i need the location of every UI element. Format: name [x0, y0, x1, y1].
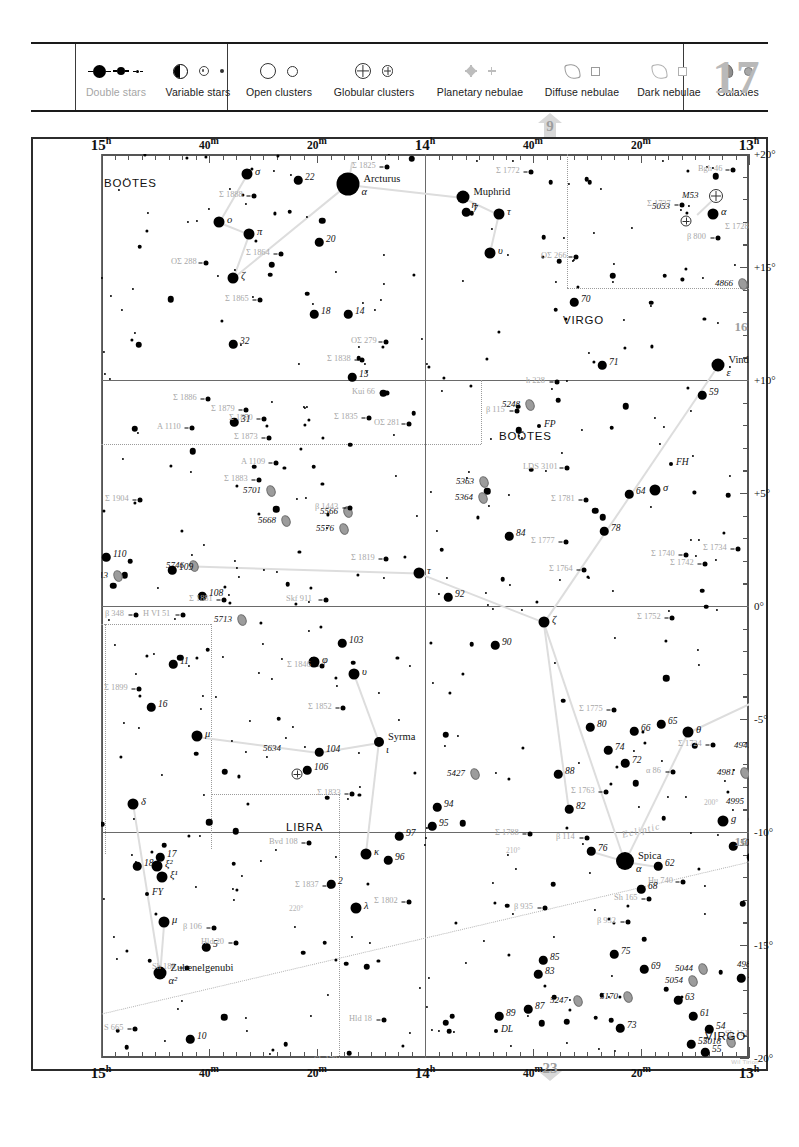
background-star	[138, 245, 143, 250]
background-star	[228, 594, 230, 596]
flamsteed-label: 18	[144, 858, 154, 868]
background-star	[553, 308, 558, 313]
greek-star	[718, 816, 729, 827]
double-star-marker	[187, 424, 196, 431]
bayer-label: φ	[322, 654, 328, 665]
background-star	[704, 604, 709, 609]
greek-star	[361, 849, 372, 860]
constellation-line	[353, 675, 379, 743]
background-star	[642, 937, 647, 942]
legend-label: Double stars	[86, 86, 146, 98]
background-star	[541, 235, 546, 240]
background-star	[187, 221, 189, 223]
flamsteed-star	[674, 996, 683, 1005]
double-star-marker	[512, 407, 521, 414]
background-star	[631, 227, 633, 229]
greek-star	[128, 799, 139, 810]
flamsteed-star	[495, 1012, 504, 1021]
background-star	[726, 493, 731, 498]
background-star	[622, 403, 629, 410]
background-star	[121, 309, 123, 311]
double-star-label: Σ 1728	[725, 222, 749, 231]
background-star	[263, 569, 265, 571]
star-name-label: Spica	[638, 850, 661, 861]
flamsteed-star	[554, 770, 563, 779]
legend-item-globular-clusters: Globular clusters	[323, 44, 425, 110]
background-star	[507, 254, 509, 256]
background-star	[284, 1042, 289, 1047]
double-star-label: Σ 1904	[105, 494, 129, 503]
flamsteed-star	[310, 310, 319, 319]
legend-item-dark-nebulae: Dark nebulae	[628, 44, 710, 110]
double-star-marker	[259, 415, 268, 422]
background-star	[450, 1014, 455, 1019]
bayer-label: κ	[374, 846, 379, 857]
named-star	[712, 359, 725, 372]
background-star	[358, 752, 360, 754]
double-star-marker	[344, 1057, 353, 1059]
background-star	[383, 254, 385, 256]
bayer-label: ζ	[241, 270, 245, 281]
double-star-marker	[382, 163, 391, 170]
background-star	[554, 662, 556, 664]
galaxy-marker	[748, 795, 749, 809]
double-star-label: Σ 1852	[308, 702, 332, 711]
flamsteed-label: 85	[550, 952, 560, 962]
flamsteed-star	[229, 340, 238, 349]
background-star	[258, 672, 260, 674]
background-star	[453, 1031, 455, 1033]
double-star-marker	[561, 538, 570, 545]
greek-star	[539, 617, 550, 628]
background-star	[222, 656, 224, 658]
background-star	[581, 429, 583, 431]
flamsteed-star	[565, 805, 574, 814]
page-link-label: 16	[735, 319, 748, 335]
background-star	[611, 975, 613, 977]
flamsteed-label: 90	[502, 637, 512, 647]
greek-star	[228, 273, 239, 284]
background-star	[134, 332, 136, 334]
background-star	[649, 300, 654, 305]
background-star	[424, 837, 426, 839]
flamsteed-star	[395, 832, 404, 841]
background-star	[690, 410, 692, 412]
background-star	[664, 987, 669, 992]
flamsteed-label: 2	[338, 876, 343, 886]
background-star	[455, 921, 458, 924]
galaxy-marker	[236, 613, 249, 627]
double-star-label: Σ 1742	[670, 558, 694, 567]
double-star-marker	[381, 338, 390, 345]
legend-label: Variable stars	[166, 86, 231, 98]
double-star-label: Σ 1888	[219, 190, 243, 199]
double-star-label: Σ 1835	[334, 412, 358, 421]
flamsteed-label: 76	[598, 843, 608, 853]
background-star	[334, 677, 337, 680]
background-star	[548, 180, 553, 185]
background-star	[335, 271, 337, 273]
star-chart-page: Double stars Variable stars Open cluster…	[0, 0, 799, 1147]
variable-label: DL	[501, 1024, 513, 1034]
flamsteed-label: 96	[395, 852, 405, 862]
background-star	[203, 794, 205, 796]
background-star	[312, 302, 314, 304]
background-star	[430, 491, 432, 493]
background-star	[690, 832, 692, 834]
flamsteed-label: 103	[349, 635, 363, 645]
dec-label: +10°	[754, 374, 776, 386]
double-star-marker	[601, 788, 610, 795]
background-star	[409, 156, 416, 163]
background-star	[260, 860, 262, 862]
bayer-label: μ	[172, 914, 177, 925]
planetary-nebula-icon	[465, 56, 496, 86]
double-star-marker	[177, 611, 186, 618]
background-star	[561, 698, 566, 703]
gridline-dec0	[101, 606, 749, 607]
background-star	[727, 790, 730, 793]
constellation-line	[197, 736, 319, 754]
background-star	[457, 735, 459, 737]
background-star	[440, 548, 445, 553]
background-star	[395, 475, 397, 477]
background-star	[101, 822, 104, 827]
bayer-label: τ	[427, 565, 431, 576]
background-star	[276, 571, 278, 573]
